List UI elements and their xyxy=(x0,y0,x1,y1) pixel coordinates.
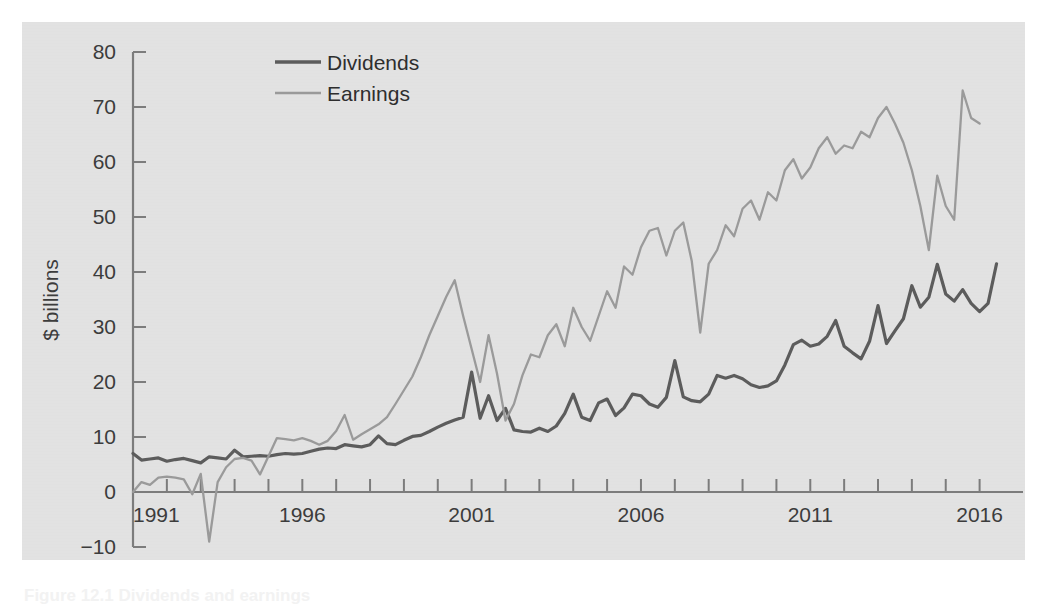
y-tick-label: 80 xyxy=(93,40,116,63)
y-tick-label: 10 xyxy=(93,425,116,448)
y-tick-label: 40 xyxy=(93,260,116,283)
y-tick-label: −10 xyxy=(80,535,116,558)
series-line-dividends xyxy=(133,264,997,463)
figure-caption-ghost: Figure 12.1 Dividends and earnings xyxy=(24,586,310,606)
x-tick-label: 1996 xyxy=(279,503,326,526)
chart-legend: DividendsEarnings xyxy=(275,51,419,105)
y-axis-title: $ billions xyxy=(39,259,62,341)
legend-label-dividends: Dividends xyxy=(327,51,419,74)
y-axis: −1001020304050607080 xyxy=(80,40,146,558)
chart-canvas: $ billions −1001020304050607080 19911996… xyxy=(0,0,1044,611)
y-tick-label: 30 xyxy=(93,315,116,338)
series-line-earnings xyxy=(133,91,980,542)
x-tick-label: 2006 xyxy=(618,503,665,526)
legend-label-earnings: Earnings xyxy=(327,82,410,105)
y-tick-label: 50 xyxy=(93,205,116,228)
x-tick-label: 1991 xyxy=(133,503,180,526)
x-tick-label: 2011 xyxy=(788,503,833,526)
y-tick-label: 0 xyxy=(104,480,116,503)
y-tick-label: 20 xyxy=(93,370,116,393)
x-tick-label: 2001 xyxy=(448,503,495,526)
x-tick-label: 2016 xyxy=(956,503,1003,526)
y-tick-label: 60 xyxy=(93,150,116,173)
x-axis: 199119962001200620112016 xyxy=(133,479,1023,526)
y-tick-label: 70 xyxy=(93,95,116,118)
series-lines xyxy=(133,91,997,542)
figure-root: $ billions −1001020304050607080 19911996… xyxy=(0,0,1044,611)
